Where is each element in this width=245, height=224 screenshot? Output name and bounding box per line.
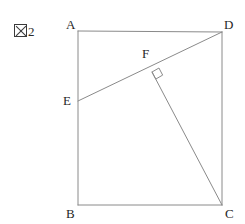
- vertex-label-f: F: [142, 47, 149, 60]
- segment-ED: [78, 32, 222, 101]
- geometry-figure: 2 A B C D E F: [0, 0, 245, 224]
- vertex-label-e: E: [63, 94, 71, 107]
- vertex-label-c: C: [225, 207, 234, 220]
- vertex-label-a: A: [66, 18, 75, 31]
- segment-FC: [152, 72, 222, 205]
- segment-DA: [78, 31, 222, 32]
- right-angle-mark-F: [152, 68, 163, 79]
- vertex-label-d: D: [224, 18, 233, 31]
- vertex-label-b: B: [66, 207, 75, 220]
- figure-drawing: [0, 0, 245, 224]
